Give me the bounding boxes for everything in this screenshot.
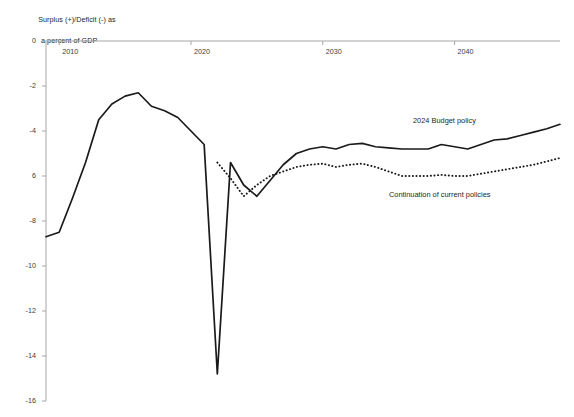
- x-axis-tick-label: 2020: [194, 47, 210, 56]
- y-axis-tick-label: -16: [16, 396, 36, 405]
- y-axis-tick-marks: [42, 41, 46, 401]
- y-axis-tick-label: -12: [16, 306, 36, 315]
- axis-lines: [46, 41, 560, 401]
- series-line-2024-budget-policy: [46, 93, 560, 374]
- y-axis-tick-label: 0: [16, 36, 36, 45]
- series-annotation-continuation-current-policies: Continuation of current policies: [389, 190, 490, 199]
- x-axis-tick-label: 2040: [458, 47, 474, 56]
- x-axis-tick-label: 2030: [326, 47, 342, 56]
- y-axis-tick-label: -14: [16, 351, 36, 360]
- y-axis-tick-label: -4: [16, 126, 36, 135]
- y-axis-tick-label: -2: [16, 81, 36, 90]
- chart-container: Surplus (+)/Deficit (-) as a percent of …: [0, 0, 574, 417]
- x-axis-tick-label: 2010: [62, 47, 78, 56]
- series-annotation-2024-budget-policy: 2024 Budget policy: [413, 116, 476, 125]
- x-axis-tick-marks: [59, 41, 454, 45]
- y-axis-tick-label: 6: [16, 171, 36, 180]
- chart-plot-area: [0, 0, 574, 417]
- y-axis-tick-label: -10: [16, 261, 36, 270]
- y-axis-tick-label: -8: [16, 216, 36, 225]
